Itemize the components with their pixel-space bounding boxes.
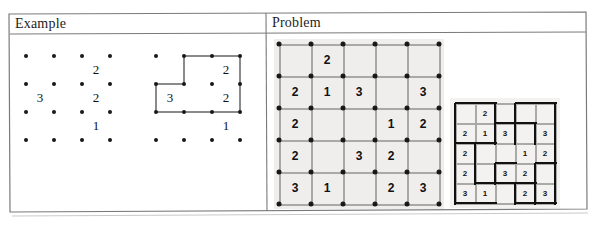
- clue-number: 2: [292, 85, 299, 99]
- lattice-dot: [154, 138, 158, 142]
- gridline-horizontal: [279, 172, 439, 174]
- lattice-dot: [24, 54, 28, 58]
- lattice-dot: [309, 74, 314, 79]
- loop-segment-vertical: [534, 163, 536, 185]
- lattice-dot: [309, 42, 314, 47]
- clue-number: 3: [503, 129, 507, 138]
- loop-segment-vertical: [554, 143, 556, 165]
- clue-number: 2: [292, 149, 299, 163]
- problem-board[interactable]: 221332122323123: [279, 44, 439, 204]
- loop-segment-vertical: [554, 183, 556, 205]
- gridline-vertical: [343, 44, 345, 204]
- clue-number: 1: [324, 181, 331, 195]
- lattice-dot: [80, 54, 84, 58]
- scan-artifact-line: [12, 213, 588, 216]
- lattice-dot: [210, 54, 214, 58]
- clue-number: 2: [483, 109, 487, 118]
- lattice-dot: [277, 42, 282, 47]
- loop-segment-vertical: [474, 163, 476, 185]
- clue-number: 1: [388, 117, 395, 131]
- lattice-dot: [309, 138, 314, 143]
- lattice-dot: [373, 202, 378, 207]
- loop-segment-vertical: [494, 123, 496, 145]
- loop-segment-vertical: [239, 84, 240, 113]
- clue-number: 2: [463, 149, 467, 158]
- loop-segment-vertical: [454, 143, 456, 165]
- lattice-dot: [154, 82, 158, 86]
- lattice-dot: [24, 82, 28, 86]
- loop-segment-horizontal: [455, 202, 477, 204]
- problem-solution-board: 221332122323123: [455, 103, 557, 205]
- lattice-dot: [341, 202, 346, 207]
- clue-number: 2: [420, 117, 427, 131]
- lattice-dot: [437, 74, 442, 79]
- lattice-dot: [108, 54, 112, 58]
- clue-number: 1: [223, 118, 230, 134]
- loop-segment-horizontal: [184, 111, 213, 112]
- lattice-dot: [108, 82, 112, 86]
- gridline-vertical: [311, 44, 313, 204]
- lattice-dot: [182, 138, 186, 142]
- lattice-dot: [373, 42, 378, 47]
- lattice-dot: [277, 138, 282, 143]
- loop-segment-vertical: [183, 56, 184, 85]
- clue-number: 3: [292, 181, 299, 195]
- lattice-dot: [373, 74, 378, 79]
- clue-number: 3: [543, 129, 547, 138]
- loop-segment-vertical: [454, 103, 456, 125]
- lattice-dot: [309, 170, 314, 175]
- clue-number: 2: [388, 181, 395, 195]
- loop-segment-vertical: [534, 183, 536, 205]
- lattice-dot: [24, 110, 28, 114]
- loop-segment-vertical: [454, 163, 456, 185]
- lattice-dot: [24, 138, 28, 142]
- lattice-dot: [210, 110, 214, 114]
- lattice-dot: [154, 110, 158, 114]
- lattice-dot: [277, 106, 282, 111]
- clue-number: 2: [543, 149, 547, 158]
- clue-number: 2: [93, 62, 100, 78]
- loop-segment-vertical: [454, 183, 456, 205]
- clue-number: 3: [356, 85, 363, 99]
- lattice-dot: [108, 138, 112, 142]
- gridline-horizontal: [279, 44, 439, 46]
- lattice-dot: [277, 74, 282, 79]
- lattice-dot: [238, 82, 242, 86]
- lattice-dot: [437, 42, 442, 47]
- lattice-dot: [405, 106, 410, 111]
- loop-segment-vertical: [534, 123, 536, 145]
- loop-segment-horizontal: [455, 102, 477, 104]
- lattice-dot: [182, 110, 186, 114]
- lattice-dot: [309, 202, 314, 207]
- lattice-dot: [341, 138, 346, 143]
- loop-segment-vertical: [494, 163, 496, 185]
- lattice-dot: [373, 138, 378, 143]
- lattice-dot: [437, 202, 442, 207]
- lattice-dot: [80, 82, 84, 86]
- lattice-dot: [405, 170, 410, 175]
- gridline-vertical: [439, 44, 441, 204]
- column-divider: [266, 13, 267, 211]
- loop-segment-vertical: [494, 103, 496, 125]
- clue-number: 3: [463, 189, 467, 198]
- lattice-dot: [437, 170, 442, 175]
- lattice-dot: [80, 110, 84, 114]
- lattice-dot: [238, 54, 242, 58]
- loop-segment-horizontal: [184, 55, 213, 56]
- loop-segment-horizontal: [475, 202, 497, 204]
- loop-segment-horizontal: [212, 111, 241, 112]
- gridline-horizontal: [279, 140, 439, 142]
- lattice-dot: [210, 82, 214, 86]
- loop-segment-vertical: [474, 143, 476, 165]
- clue-number: 1: [324, 85, 331, 99]
- lattice-dot: [154, 54, 158, 58]
- clue-number: 3: [420, 85, 427, 99]
- loop-segment-vertical: [554, 163, 556, 185]
- lattice-dot: [238, 110, 242, 114]
- lattice-dot: [309, 106, 314, 111]
- example-solved-grid: 2321: [156, 56, 256, 140]
- clue-number: 2: [223, 90, 230, 106]
- clue-number: 2: [523, 169, 527, 178]
- lattice-dot: [437, 106, 442, 111]
- gridline-vertical: [375, 44, 377, 204]
